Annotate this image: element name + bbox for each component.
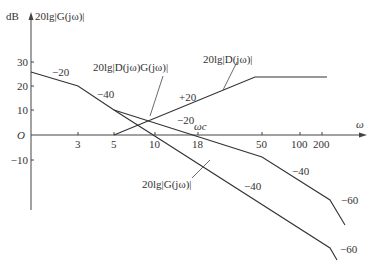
curve-label-DG: 20lg|D(jω)G(jω)| <box>93 61 168 73</box>
leader-DG <box>150 76 163 116</box>
slope-label: +20 <box>179 91 196 103</box>
x-axis-title: ω <box>356 118 364 130</box>
bode-diagram: dB 20lg|G(jω)| ω O ωc 20lg|D(jω)G(jω)| 2… <box>0 0 371 268</box>
y-axis-arrow-icon <box>29 12 34 20</box>
x-tick-label: 5 <box>111 138 117 150</box>
slope-label: −60 <box>340 243 357 255</box>
curve-label-D: 20lg|D(jω)| <box>203 53 253 65</box>
x-tick-label: 200 <box>313 138 330 150</box>
y-tick-label: 30 <box>17 56 28 68</box>
y-tick-label: 20 <box>17 80 28 92</box>
y-tick-label: 10 <box>17 104 28 116</box>
plot-area <box>0 0 371 268</box>
slope-label: −40 <box>244 180 261 192</box>
x-tick-label: 10 <box>149 138 160 150</box>
crossover-label: ωc <box>194 120 207 132</box>
curve-D <box>114 77 327 135</box>
x-tick-label: 50 <box>256 138 267 150</box>
curve-label-G: 20lg|G(jω)| <box>142 178 192 190</box>
x-tick-label: 100 <box>291 138 308 150</box>
x-tick-label: 3 <box>75 138 81 150</box>
curve-DG <box>114 110 345 225</box>
x-axis-arrow-icon <box>359 133 367 138</box>
slope-label: −20 <box>52 66 69 78</box>
y-unit-label: dB <box>6 10 19 22</box>
y-axis-title: 20lg|G(jω)| <box>35 10 85 22</box>
slope-label: −60 <box>341 194 358 206</box>
slope-label: −20 <box>177 114 194 126</box>
slope-label: −40 <box>97 88 114 100</box>
slope-label: −40 <box>292 165 309 177</box>
x-tick-label: 18 <box>192 138 203 150</box>
y-tick-label: −10 <box>11 154 28 166</box>
origin-label: O <box>17 129 25 141</box>
